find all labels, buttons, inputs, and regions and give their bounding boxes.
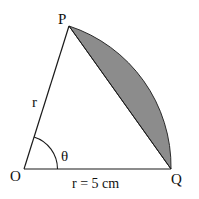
label-angle-theta: θ bbox=[61, 148, 68, 164]
label-q: Q bbox=[171, 171, 182, 187]
label-o: O bbox=[10, 168, 21, 184]
label-side-oq: r = 5 cm bbox=[72, 176, 119, 191]
sector-diagram: P O Q r θ r = 5 cm bbox=[0, 0, 199, 199]
angle-arc bbox=[34, 137, 58, 169]
label-p: P bbox=[58, 11, 66, 27]
label-side-op: r bbox=[32, 94, 37, 110]
chord-pq bbox=[69, 26, 171, 169]
